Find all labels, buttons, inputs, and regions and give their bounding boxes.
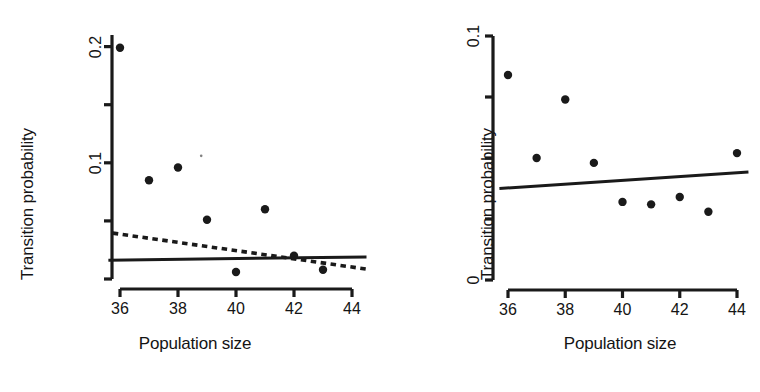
right-fit-lines-group (499, 172, 748, 189)
x-tick-label: 38 (556, 301, 574, 319)
y-tick-label: 0.1 (465, 16, 483, 56)
figure-root: Transition probability Population size 0… (0, 0, 760, 392)
data-point (232, 268, 240, 276)
scan-speck (200, 155, 203, 158)
y-tick-label: 0.2 (87, 27, 105, 67)
data-point (504, 71, 512, 79)
y-tick-label: 0.1 (87, 143, 105, 183)
fit-line-solid (108, 257, 366, 260)
x-tick-label: 44 (343, 300, 361, 318)
fit-line-solid (499, 172, 748, 189)
right-plot-canvas (380, 0, 760, 392)
chart-panel-left: Transition probability Population size 0… (0, 0, 380, 392)
data-point (319, 266, 327, 274)
x-tick-label: 40 (227, 300, 245, 318)
x-tick-label: 40 (614, 301, 632, 319)
x-tick-label: 42 (671, 301, 689, 319)
data-point (733, 149, 741, 157)
fit-line-dashed (113, 233, 367, 269)
data-point (590, 159, 598, 167)
chart-panel-right: Transition probability Population size 0… (380, 0, 760, 392)
data-point (647, 200, 655, 208)
right-data-points-group (504, 71, 741, 216)
data-point (174, 163, 182, 171)
data-point (145, 176, 153, 184)
left-data-points-group (116, 44, 327, 277)
data-point (116, 44, 124, 52)
right-axes-group (485, 36, 737, 298)
y-tick-label: 0 (465, 260, 483, 300)
data-point (203, 216, 211, 224)
data-point (532, 154, 540, 162)
left-fit-lines-group (108, 233, 366, 269)
data-point (704, 207, 712, 215)
x-tick-label: 38 (169, 300, 187, 318)
left-plot-canvas (0, 0, 380, 392)
x-tick-label: 42 (285, 300, 303, 318)
data-point (561, 95, 569, 103)
data-point (290, 252, 298, 260)
x-tick-label: 36 (499, 301, 517, 319)
x-tick-label: 44 (728, 301, 746, 319)
data-point (618, 198, 626, 206)
data-point (261, 205, 269, 213)
x-tick-label: 36 (111, 300, 129, 318)
data-point (676, 193, 684, 201)
